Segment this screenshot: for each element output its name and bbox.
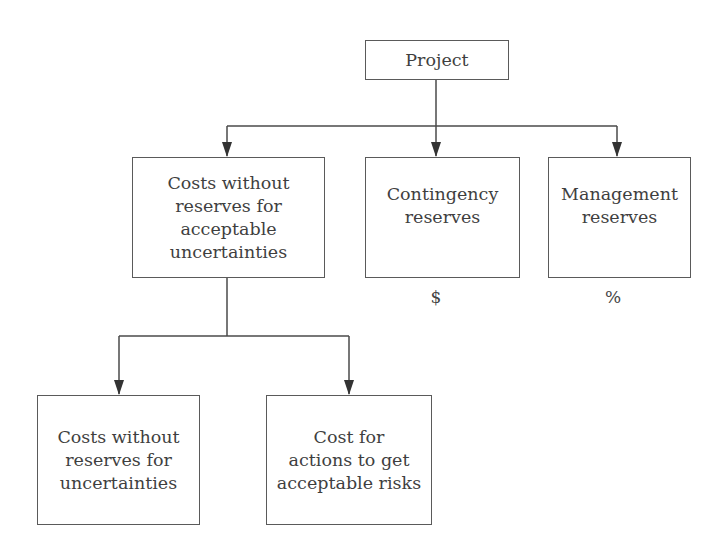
diagram-canvas: Project Costs without reserves for accep… (0, 0, 721, 558)
arrowhead-icon (114, 380, 124, 395)
node-costs-without-reserves-acceptable: Costs without reserves for acceptable un… (132, 157, 325, 278)
node-management-label: Management reserves (561, 183, 678, 229)
node-costs-uncertainties-label: Costs without reserves for uncertainties (57, 426, 179, 495)
arrowhead-icon (612, 142, 622, 157)
node-project-label: Project (405, 49, 468, 72)
arrowhead-icon (344, 380, 354, 395)
management-unit-percent: % (593, 287, 633, 307)
arrowhead-icon (222, 142, 232, 157)
node-project: Project (365, 40, 509, 80)
contingency-unit-dollar: $ (416, 287, 456, 307)
node-contingency-label: Contingency reserves (387, 183, 499, 229)
node-cost-for-actions: Cost for actions to get acceptable risks (266, 395, 432, 525)
node-contingency-reserves: Contingency reserves (365, 157, 520, 278)
node-management-reserves: Management reserves (548, 157, 691, 278)
arrowhead-icon (431, 142, 441, 157)
node-costs-without-reserves-uncertainties: Costs without reserves for uncertainties (37, 395, 200, 525)
node-cost-actions-label: Cost for actions to get acceptable risks (277, 426, 421, 495)
node-costs-acceptable-label: Costs without reserves for acceptable un… (167, 172, 289, 264)
